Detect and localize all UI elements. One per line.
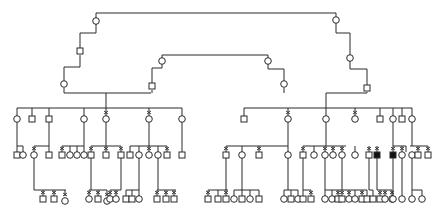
circle-icon <box>382 196 389 203</box>
square-icon <box>29 116 35 122</box>
circle-icon <box>265 58 272 65</box>
circle-icon <box>347 55 354 62</box>
female-individual-IV-4 <box>81 116 88 123</box>
female-individual-I-2 <box>333 17 340 24</box>
female-individual-II-3 <box>159 58 166 65</box>
square-icon <box>171 196 177 202</box>
male-individual-V-1 <box>14 152 20 158</box>
square-icon <box>308 196 314 202</box>
male-individual-V-12 <box>127 152 133 158</box>
circle-icon <box>74 152 81 159</box>
male-individual-V-29 <box>374 147 380 158</box>
male-individual-VI-30 <box>339 191 345 202</box>
male-individual-VI-2 <box>51 191 57 202</box>
square-icon <box>118 152 124 158</box>
circle-icon <box>81 152 88 159</box>
circle-icon <box>333 17 340 24</box>
female-individual-V-6 <box>67 152 74 159</box>
circle-icon <box>352 196 359 203</box>
female-individual-V-26 <box>339 147 346 158</box>
female-individual-VI-39 <box>390 196 397 203</box>
circle-icon <box>281 81 288 88</box>
female-individual-VI-28 <box>329 196 336 203</box>
male-individual-V-18 <box>223 147 229 158</box>
square-icon <box>215 196 221 202</box>
square-icon <box>46 116 52 122</box>
female-individual-IV-13 <box>390 116 397 123</box>
female-individual-V-19 <box>239 152 246 159</box>
male-individual-VI-34 <box>364 196 370 202</box>
circle-icon <box>399 152 406 159</box>
female-individual-V-2 <box>20 152 27 159</box>
male-individual-V-16 <box>164 147 170 158</box>
circle-icon <box>409 196 416 203</box>
male-individual-V-9 <box>88 147 94 158</box>
female-individual-IV-7 <box>179 116 186 123</box>
relationship-lines <box>17 13 428 196</box>
square-icon <box>163 196 169 202</box>
circle-icon <box>390 196 397 203</box>
circle-icon <box>136 152 143 159</box>
circle-icon <box>136 196 143 203</box>
female-individual-V-24 <box>322 147 329 158</box>
square-icon <box>377 116 383 122</box>
individuals <box>14 17 431 205</box>
male-individual-IV-14 <box>399 116 405 122</box>
circle-icon <box>409 116 416 123</box>
square-icon <box>154 196 160 202</box>
square-icon <box>205 196 211 202</box>
square-icon <box>179 152 185 158</box>
male-individual-III-4 <box>364 85 370 91</box>
square-icon <box>288 196 294 202</box>
circle-icon <box>146 152 153 159</box>
square-icon <box>239 196 245 202</box>
circle-icon <box>352 152 359 159</box>
female-individual-V-14 <box>146 147 153 158</box>
square-icon <box>127 152 133 158</box>
female-individual-II-4 <box>265 58 272 65</box>
square-icon <box>59 152 65 158</box>
square-icon <box>300 152 306 158</box>
male-individual-VI-12 <box>154 191 160 202</box>
female-individual-VI-37 <box>382 191 389 202</box>
female-individual-VI-7 <box>107 191 114 202</box>
male-individual-IV-2 <box>29 116 35 122</box>
square-icon <box>364 196 370 202</box>
circle-icon <box>390 116 397 123</box>
female-individual-V-7 <box>74 152 81 159</box>
female-individual-V-27 <box>352 152 359 159</box>
square-icon <box>40 196 46 202</box>
circle-icon <box>239 152 246 159</box>
female-individual-VI-32 <box>352 196 359 203</box>
male-individual-V-28 <box>366 147 372 158</box>
female-individual-IV-6 <box>146 111 153 122</box>
male-individual-II-1 <box>77 48 83 54</box>
circle-icon <box>81 116 88 123</box>
male-individual-V-4 <box>46 152 52 158</box>
circle-icon <box>14 116 21 123</box>
male-individual-VI-35 <box>370 196 376 202</box>
female-individual-VI-8 <box>113 191 120 202</box>
circle-icon <box>409 152 416 159</box>
male-individual-VI-17 <box>223 191 229 202</box>
female-individual-V-25 <box>330 147 337 158</box>
circle-icon <box>281 196 288 203</box>
circle-icon <box>93 18 100 25</box>
square-icon <box>95 196 101 202</box>
square-icon <box>14 152 20 158</box>
square-icon <box>366 152 372 158</box>
circle-icon <box>399 196 406 203</box>
female-individual-V-8 <box>81 152 88 159</box>
female-individual-VI-42 <box>419 196 426 203</box>
square-icon <box>129 196 135 202</box>
circle-icon <box>113 196 120 203</box>
circle-icon <box>339 152 346 159</box>
square-icon <box>77 48 83 54</box>
male-individual-VI-5 <box>95 191 101 202</box>
male-individual-IV-8 <box>241 116 247 122</box>
male-individual-VI-10 <box>129 196 135 202</box>
square-icon <box>256 196 262 202</box>
female-individual-VI-41 <box>409 196 416 203</box>
female-individual-VI-11 <box>136 196 143 203</box>
square-icon <box>370 196 376 202</box>
